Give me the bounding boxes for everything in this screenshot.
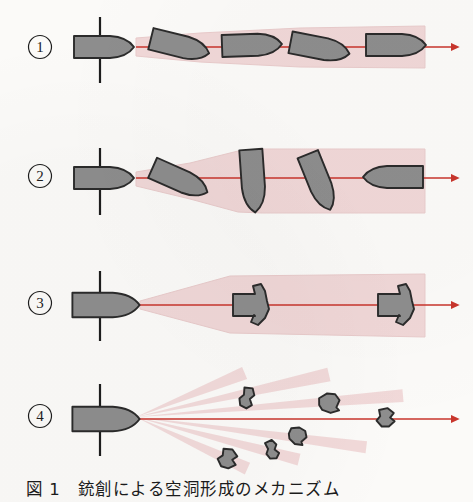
row-1-label: 1: [29, 36, 52, 59]
row-2-bullet-1-body: [74, 167, 134, 189]
row-3: 3: [29, 271, 453, 341]
row-2-bullet-1: [74, 167, 134, 189]
row-4: 4: [29, 367, 453, 475]
row-4-fragment-3-body: [376, 407, 396, 428]
figure-caption: 図 1 銃創による空洞形成のメカニズム: [26, 476, 340, 500]
row-1-bullet-1: [74, 36, 134, 58]
row-1: 1: [29, 17, 453, 83]
row-2-bullet-5: [363, 166, 423, 188]
row-1-bullet-5: [366, 34, 426, 56]
row-4-label: 4: [29, 405, 52, 428]
row-2-label-text: 2: [36, 168, 44, 184]
row-2-bullet-5-body: [363, 166, 423, 188]
row-3-bullet-1: [72, 293, 139, 318]
row-1-bullet-5-body: [366, 34, 426, 56]
figure-container: 1234: [0, 0, 473, 502]
row-3-label-text: 3: [36, 295, 44, 311]
cavity-formation-diagram: 1234: [0, 0, 473, 502]
row-1-bullet-1-body: [74, 36, 134, 58]
row-3-label: 3: [29, 292, 52, 315]
row-4-bullet-1: [72, 407, 139, 432]
row-2-label: 2: [29, 165, 52, 188]
row-4-bullet-1-body: [72, 407, 139, 432]
row-3-bullet-1-body: [72, 293, 139, 318]
row-4-fragment-2-body: [317, 392, 341, 415]
row-1-label-text: 1: [36, 39, 44, 55]
row-4-fragment-2: [317, 392, 341, 415]
row-2: 2: [29, 148, 453, 215]
row-4-fragment-3: [376, 407, 396, 428]
row-4-label-text: 4: [36, 408, 44, 424]
